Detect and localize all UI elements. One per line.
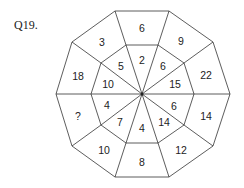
decagon-puzzle: 6 9 22 14 12 8 10 ? 18 3 2 6 15 6 14 4 7… — [0, 0, 244, 188]
outer-cell-7: 10 — [98, 144, 110, 156]
inner-cell-8: 4 — [104, 99, 110, 111]
inner-cell-10: 5 — [118, 60, 124, 72]
outer-cell-5: 12 — [175, 144, 187, 156]
outer-cell-2: 9 — [178, 35, 184, 47]
outer-cell-9: 18 — [72, 70, 84, 82]
inner-cell-9: 10 — [102, 78, 114, 90]
inner-cell-7: 7 — [117, 116, 123, 128]
outer-cell-8-unknown: ? — [75, 110, 81, 122]
outer-cell-3: 22 — [200, 69, 212, 81]
outer-cell-4: 14 — [200, 110, 212, 122]
inner-cell-3: 15 — [169, 78, 181, 90]
outer-cell-1: 6 — [139, 22, 145, 34]
outer-cell-6: 8 — [139, 156, 145, 168]
center-dot — [141, 93, 144, 96]
inner-cell-2: 6 — [160, 60, 166, 72]
inner-cell-5: 14 — [158, 116, 170, 128]
outer-cell-10: 3 — [99, 36, 105, 48]
inner-cell-4: 6 — [171, 100, 177, 112]
inner-cell-6: 4 — [139, 122, 145, 134]
inner-cell-1: 2 — [139, 54, 145, 66]
